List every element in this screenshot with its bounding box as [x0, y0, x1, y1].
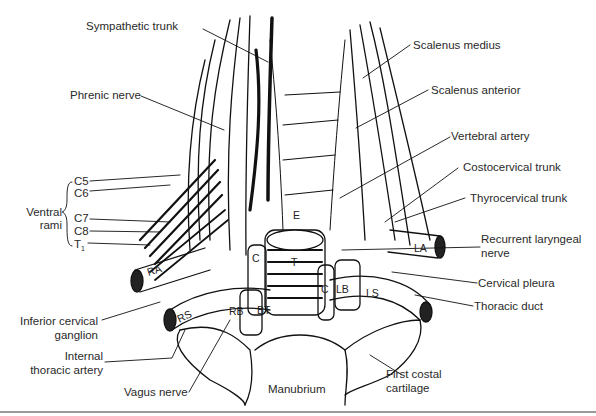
abbr-c-right: C: [252, 252, 260, 264]
label-manubrium: Manubrium: [268, 383, 326, 396]
label-vertebral-artery: Vertebral artery: [451, 130, 530, 143]
abbr-ls: LS: [366, 287, 379, 299]
bottom-rule: [0, 411, 596, 413]
label-phrenic-nerve: Phrenic nerve: [70, 89, 141, 102]
label-ramus-t1: T1: [74, 238, 85, 255]
label-recurrent-laryngeal-line1: Recurrent laryngeal: [481, 233, 581, 246]
label-cervical-pleura: Cervical pleura: [478, 277, 555, 290]
label-ramus-t: T: [74, 238, 81, 250]
label-internal-thoracic-artery-line2: thoracic artery: [0, 364, 103, 377]
abbr-bt: BT: [257, 304, 270, 316]
label-thyrocervical-trunk: Thyrocervical trunk: [470, 192, 567, 205]
label-ramus-c7: C7: [74, 212, 89, 225]
label-ramus-c8: C8: [74, 225, 89, 238]
abbr-c-left: C: [321, 283, 329, 295]
label-inferior-cervical-ganglion-line1: Inferior cervical: [0, 315, 98, 328]
label-recurrent-laryngeal-line2: nerve: [481, 247, 510, 260]
label-ventral-rami-line2: rami: [22, 219, 62, 232]
label-ramus-t1-subscript: 1: [81, 245, 85, 252]
label-inferior-cervical-ganglion-line2: ganglion: [0, 329, 98, 342]
anatomy-figure: Sympathetic trunk Phrenic nerve Ventral …: [0, 0, 596, 416]
abbr-la: LA: [414, 242, 427, 254]
abbr-trachea: T: [291, 256, 297, 268]
label-internal-thoracic-artery-line1: Internal: [0, 350, 103, 363]
abbr-lb: LB: [336, 283, 349, 295]
label-scalenus-medius: Scalenus medius: [413, 39, 501, 52]
label-ventral-rami-line1: Ventral: [22, 206, 62, 219]
label-vagus-nerve: Vagus nerve: [124, 386, 188, 399]
label-first-costal-cartilage-line2: cartilage: [386, 382, 429, 395]
abbr-rb: RB: [229, 305, 244, 317]
label-first-costal-cartilage-line1: First costal: [386, 368, 442, 381]
label-scalenus-anterior: Scalenus anterior: [431, 84, 521, 97]
label-sympathetic-trunk: Sympathetic trunk: [86, 20, 178, 33]
abbr-esophagus: E: [293, 209, 300, 221]
label-thoracic-duct: Thoracic duct: [474, 300, 543, 313]
label-costocervical-trunk: Costocervical trunk: [463, 161, 561, 174]
label-ramus-c6: C6: [74, 187, 89, 200]
